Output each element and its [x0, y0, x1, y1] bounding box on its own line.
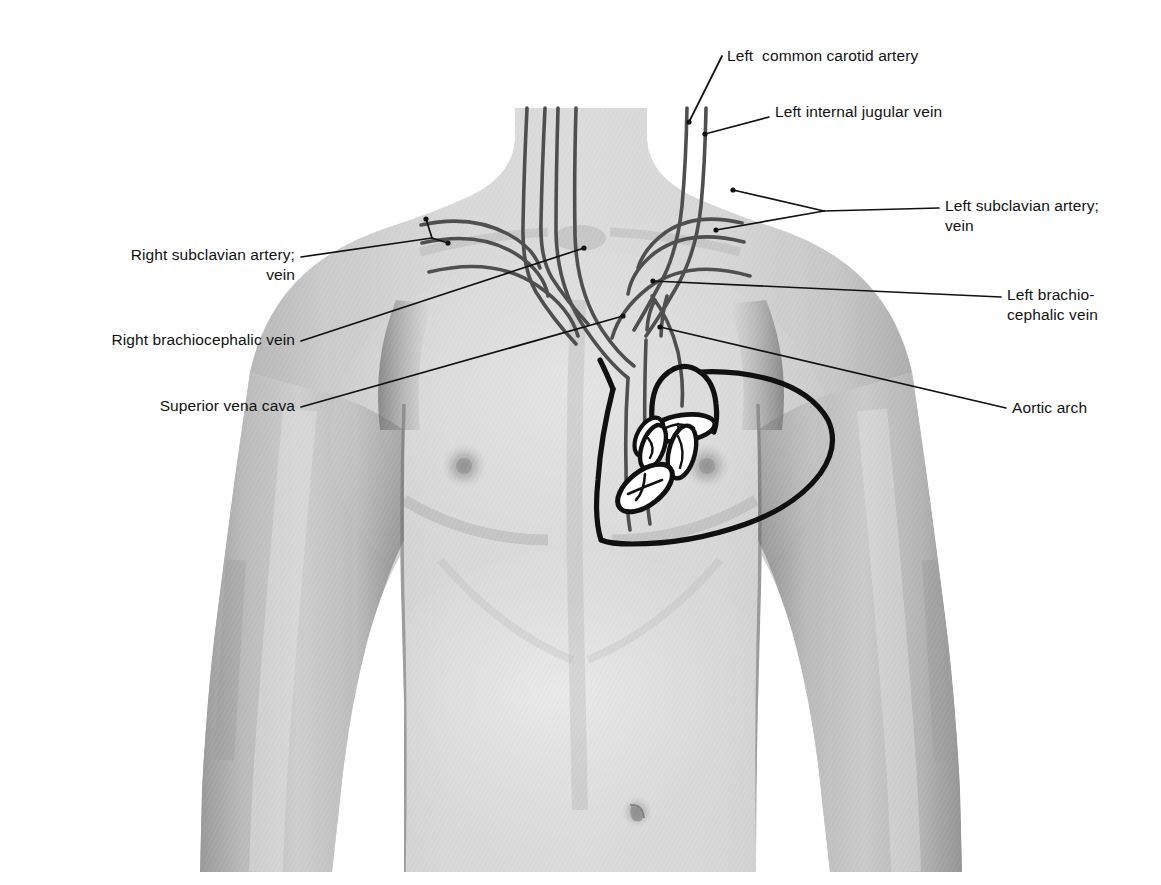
label-right-brachiocephalic-vein: Right brachiocephalic vein — [52, 330, 295, 350]
label-left-subclavian-artery-vein: Left subclavian artery; vein — [945, 196, 1099, 236]
label-left-brachiocephalic-vein: Left brachio- cephalic vein — [1007, 285, 1098, 325]
torso-photograph — [0, 0, 1161, 885]
label-superior-vena-cava: Superior vena cava — [103, 396, 295, 416]
label-left-internal-jugular-vein: Left internal jugular vein — [775, 102, 942, 122]
label-aortic-arch: Aortic arch — [1012, 398, 1087, 418]
scan-texture-overlay — [0, 0, 1161, 885]
anatomy-figure-canvas: Left common carotid artery Left internal… — [0, 0, 1161, 885]
label-left-common-carotid-artery: Left common carotid artery — [727, 46, 918, 66]
label-right-subclavian-artery-vein: Right subclavian artery; vein — [91, 245, 295, 285]
thorax-anatomy-illustration — [0, 0, 1161, 885]
leader-left-internal-jugular-vein — [702, 117, 769, 137]
skin-mark — [763, 604, 769, 610]
